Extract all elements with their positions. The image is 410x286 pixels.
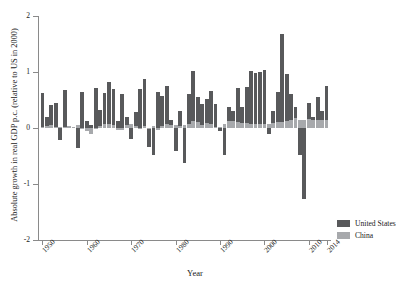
- bar-china: [320, 120, 324, 128]
- y-tick: [33, 240, 38, 241]
- y-tick-label: -1: [4, 180, 30, 188]
- bar-china: [271, 123, 275, 128]
- y-tick-label: -2: [4, 236, 30, 244]
- bar-china: [267, 124, 271, 128]
- bar-china: [307, 119, 311, 128]
- bar-china: [280, 122, 284, 128]
- bar-united-states: [165, 86, 169, 128]
- legend-label: United States: [355, 219, 396, 228]
- bar-china: [178, 126, 182, 128]
- bar-china: [58, 127, 62, 128]
- bar-united-states: [41, 93, 45, 128]
- bar-united-states: [85, 121, 89, 128]
- bar-china: [285, 121, 289, 128]
- bar-china: [174, 125, 178, 128]
- bar-china: [200, 125, 204, 128]
- bar-united-states: [249, 71, 253, 128]
- bar-china: [85, 128, 89, 131]
- bar-china: [249, 124, 253, 128]
- bar-china: [205, 123, 209, 128]
- y-tick: [33, 16, 38, 17]
- bar-united-states: [156, 92, 160, 128]
- chart-figure: Absolute growth in real GDP p.c. (relati…: [0, 0, 410, 286]
- bar-china: [263, 124, 267, 128]
- bar-united-states: [152, 128, 156, 155]
- bar-united-states: [143, 79, 147, 128]
- bar-united-states: [280, 34, 284, 128]
- bar-china: [236, 122, 240, 128]
- legend-item: United States: [337, 219, 407, 228]
- bar-united-states: [245, 87, 249, 128]
- y-tick: [33, 72, 38, 73]
- bar-united-states: [138, 89, 142, 128]
- bar-china: [294, 118, 298, 128]
- bar-china: [254, 124, 258, 128]
- bar-china: [218, 127, 222, 128]
- legend-swatch: [337, 220, 350, 227]
- bar-united-states: [263, 70, 267, 128]
- bar-china: [325, 120, 329, 128]
- bar-china: [160, 126, 164, 128]
- bar-china: [223, 124, 227, 128]
- y-tick: [33, 128, 38, 129]
- bar-china: [49, 125, 53, 128]
- bar-china: [143, 126, 147, 128]
- bar-united-states: [94, 88, 98, 128]
- legend-label: China: [355, 231, 373, 240]
- bar-china: [98, 126, 102, 128]
- bar-china: [63, 127, 67, 128]
- y-tick-label: 1: [4, 68, 30, 76]
- bar-china: [311, 120, 315, 128]
- bar-china: [67, 126, 71, 128]
- bar-china: [316, 120, 320, 128]
- bar-united-states: [80, 92, 84, 128]
- bar-china: [45, 126, 49, 128]
- bar-china: [152, 126, 156, 128]
- bar-china: [103, 124, 107, 128]
- bar-china: [227, 121, 231, 128]
- bar-united-states: [218, 128, 222, 131]
- bar-china: [89, 128, 93, 134]
- bar-united-states: [302, 128, 306, 199]
- bar-china: [209, 124, 213, 128]
- legend-item: China: [337, 231, 407, 240]
- bar-united-states: [183, 128, 187, 163]
- bar-united-states: [63, 90, 67, 128]
- bar-china: [80, 128, 84, 129]
- bar-china: [302, 120, 306, 128]
- bar-united-states: [129, 128, 133, 139]
- bar-china: [72, 127, 76, 128]
- bar-china: [156, 128, 160, 130]
- bar-china: [107, 124, 111, 128]
- bar-china: [169, 125, 173, 128]
- bar-china: [183, 125, 187, 128]
- bar-china: [289, 120, 293, 128]
- bar-china: [165, 124, 169, 128]
- bar-united-states: [58, 128, 62, 140]
- bar-united-states: [54, 103, 58, 128]
- bar-united-states: [223, 128, 227, 155]
- bar-united-states: [285, 74, 289, 128]
- bar-united-states: [103, 93, 107, 128]
- y-tick-label: 2: [4, 12, 30, 20]
- bar-china: [214, 127, 218, 128]
- y-tick: [33, 184, 38, 185]
- bar-china: [191, 121, 195, 128]
- bar-china: [125, 125, 129, 128]
- bar-united-states: [107, 82, 111, 128]
- bar-united-states: [254, 73, 258, 128]
- bar-china: [258, 124, 262, 128]
- bar-china: [298, 120, 302, 128]
- bar-united-states: [160, 96, 164, 128]
- bar-china: [120, 128, 124, 130]
- bar-china: [147, 128, 151, 129]
- bar-china: [187, 124, 191, 128]
- bar-united-states: [298, 128, 302, 155]
- bar-china: [116, 128, 120, 130]
- bar-united-states: [209, 91, 213, 128]
- bar-china: [94, 128, 98, 129]
- bar-china: [196, 122, 200, 128]
- plot-area: 210-1-2 19501960197019801990200020102014: [0, 0, 410, 286]
- bar-united-states: [120, 94, 124, 128]
- bar-china: [240, 123, 244, 128]
